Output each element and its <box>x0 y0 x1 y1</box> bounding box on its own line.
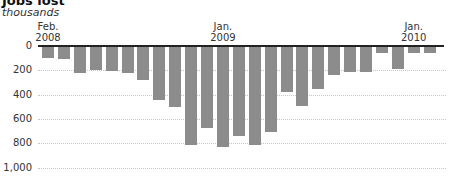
bar <box>265 47 277 132</box>
x-tick-year: 2008 <box>28 32 68 43</box>
bar <box>424 47 436 53</box>
bar <box>408 47 420 53</box>
bar <box>360 47 372 72</box>
bar <box>233 47 245 136</box>
bar <box>42 47 54 58</box>
x-tick-label: Jan.2010 <box>394 21 434 43</box>
x-tick-label: Jan.2009 <box>203 21 243 43</box>
bar <box>185 47 197 145</box>
bar <box>122 47 134 73</box>
x-tick-year: 2010 <box>394 32 434 43</box>
x-tick-year: 2009 <box>203 32 243 43</box>
bar <box>392 47 404 69</box>
bar <box>201 47 213 128</box>
bar <box>281 47 293 92</box>
zero-baseline <box>38 45 444 47</box>
bar <box>169 47 181 107</box>
gridline <box>38 143 446 144</box>
bar <box>328 47 340 75</box>
chart-subtitle: thousands <box>2 6 59 19</box>
y-tick-label: 200 <box>0 65 32 75</box>
y-tick-label: 1,000 <box>0 163 32 173</box>
bar <box>296 47 308 106</box>
y-tick-label: 600 <box>0 114 32 124</box>
x-tick-month: Jan. <box>394 21 434 32</box>
bar <box>106 47 118 71</box>
bar <box>217 47 229 147</box>
bar <box>312 47 324 89</box>
bar <box>153 47 165 100</box>
bar <box>376 47 388 53</box>
gridline <box>38 168 446 169</box>
y-tick-label: 800 <box>0 138 32 148</box>
bar <box>249 47 261 145</box>
bar <box>344 47 356 72</box>
y-tick-label: 400 <box>0 90 32 100</box>
x-tick-month: Jan. <box>203 21 243 32</box>
bar <box>74 47 86 73</box>
x-tick-label: Feb.2008 <box>28 21 68 43</box>
bar <box>90 47 102 70</box>
bar <box>58 47 70 59</box>
bar <box>137 47 149 80</box>
x-tick-month: Feb. <box>28 21 68 32</box>
